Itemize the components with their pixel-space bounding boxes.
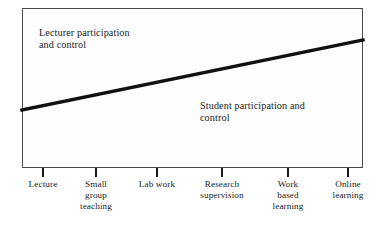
axis-label-lecture: Lecture <box>13 179 73 190</box>
axis-label-lab-work: Lab work <box>127 179 187 190</box>
axis-tick-online-learning <box>347 168 349 177</box>
axis-tick-lecture <box>42 168 44 177</box>
axis-label-research-supervision: Research supervision <box>186 179 258 201</box>
axis-tick-small-group-teaching <box>95 168 97 177</box>
axis-tick-work-based-learning <box>287 168 289 177</box>
axis-tick-layer: Lecture Small group teaching Lab work Re… <box>0 0 384 229</box>
axis-label-online-learning: Online learning <box>318 179 378 201</box>
axis-label-work-based-learning: Work based learning <box>258 179 318 212</box>
axis-label-small-group-teaching: Small group teaching <box>66 179 126 212</box>
axis-tick-research-supervision <box>221 168 223 177</box>
axis-tick-lab-work <box>156 168 158 177</box>
diagram-root: Lecturer participation and control Stude… <box>0 0 384 229</box>
